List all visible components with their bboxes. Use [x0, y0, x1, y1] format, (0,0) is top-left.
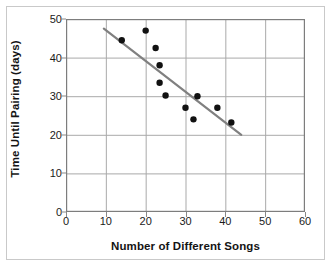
y-tick-mark [61, 57, 66, 58]
data-point [119, 37, 125, 43]
data-point [190, 116, 196, 122]
data-point [182, 105, 188, 111]
x-tick-mark [305, 212, 306, 217]
y-tick-label: 50 [34, 13, 62, 25]
data-point [142, 27, 148, 33]
y-tick-mark [61, 19, 66, 20]
y-axis-tick-labels: 01020304050 [30, 0, 62, 275]
data-point [214, 105, 220, 111]
x-tick-mark [186, 212, 187, 217]
y-tick-mark [61, 173, 66, 174]
y-axis-label: Time Until Pairing (days) [9, 40, 21, 177]
x-tick-mark [146, 212, 147, 217]
x-tick-mark [106, 212, 107, 217]
data-point [194, 93, 200, 99]
plot-area [66, 19, 305, 212]
data-point [156, 79, 162, 85]
y-tick-mark [61, 134, 66, 135]
y-tick-label: 10 [34, 167, 62, 179]
data-point [162, 92, 168, 98]
x-tick-mark [265, 212, 266, 217]
y-axis-label-container: Time Until Pairing (days) [2, 0, 28, 218]
x-axis-tick-labels: 0102030405060 [0, 215, 333, 233]
data-point [156, 62, 162, 68]
scatter-plot-svg [66, 19, 305, 212]
y-tick-label: 40 [34, 52, 62, 64]
data-point [228, 119, 234, 125]
y-tick-mark [61, 96, 66, 97]
chart-figure: Time Until Pairing (days) 01020304050 01… [0, 0, 333, 275]
data-point [152, 45, 158, 51]
y-tick-label: 30 [34, 90, 62, 102]
y-tick-label: 20 [34, 129, 62, 141]
x-tick-mark [66, 212, 67, 217]
x-tick-mark [225, 212, 226, 217]
x-axis-label: Number of Different Songs [66, 240, 305, 252]
